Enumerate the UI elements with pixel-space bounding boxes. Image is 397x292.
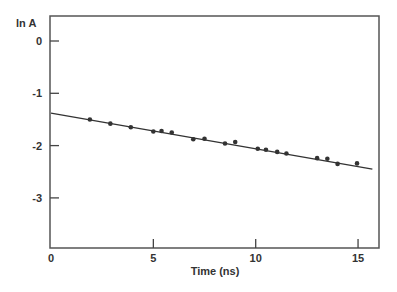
data-point [335, 162, 340, 167]
data-point [108, 121, 113, 126]
x-tick-label: 0 [48, 252, 54, 264]
y-tick-label: -1 [32, 87, 42, 99]
data-point [169, 130, 174, 135]
y-axis-ticks: 0-1-2-3 [32, 35, 59, 204]
data-point [202, 137, 207, 142]
y-tick-label: -2 [32, 140, 42, 152]
y-tick-label: -3 [32, 192, 42, 204]
data-point [88, 117, 93, 122]
chart: 0-1-2-3 051015 ln A Time (ns) [0, 0, 397, 292]
x-tick-label: 10 [250, 252, 262, 264]
fit-line [51, 113, 372, 169]
data-point [325, 156, 330, 161]
data-point [284, 151, 289, 156]
data-point [223, 141, 228, 146]
data-point [151, 129, 156, 134]
data-point [129, 125, 134, 130]
data-point [355, 161, 360, 166]
y-tick-label: 0 [36, 35, 42, 47]
data-point [233, 140, 238, 145]
x-axis-label: Time (ns) [191, 265, 240, 277]
data-point [264, 147, 269, 152]
x-axis-ticks: 051015 [48, 239, 364, 264]
data-point [255, 146, 260, 151]
data-point [159, 129, 164, 134]
y-axis-label: ln A [16, 17, 36, 29]
x-tick-label: 15 [352, 252, 364, 264]
data-point [191, 137, 196, 142]
data-points [88, 117, 360, 166]
data-point [275, 150, 280, 155]
x-tick-label: 5 [150, 252, 156, 264]
data-point [315, 156, 320, 161]
fit-line-path [51, 113, 372, 169]
plot-frame [50, 16, 379, 248]
